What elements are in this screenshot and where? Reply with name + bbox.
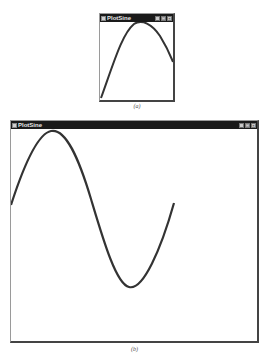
plot-area: [100, 22, 173, 100]
caption-b: (b): [10, 346, 259, 352]
plotsine-window-small: PlotSine _ □ ×: [99, 13, 175, 102]
close-button[interactable]: ×: [251, 123, 256, 128]
close-button[interactable]: ×: [167, 16, 172, 21]
plot-area: [11, 129, 257, 341]
window-controls: _ □ ×: [239, 123, 256, 128]
system-menu-icon[interactable]: [12, 123, 17, 128]
title-bar[interactable]: PlotSine _ □ ×: [100, 14, 173, 22]
caption-a: (a): [99, 103, 175, 109]
window-controls: _ □ ×: [155, 16, 172, 21]
minimize-button[interactable]: _: [239, 123, 244, 128]
title-bar[interactable]: PlotSine _ □ ×: [11, 121, 257, 129]
sine-curve-partial: [100, 22, 173, 100]
maximize-button[interactable]: □: [245, 123, 250, 128]
window-title: PlotSine: [18, 121, 239, 129]
window-title: PlotSine: [107, 14, 155, 22]
plotsine-window-large: PlotSine _ □ ×: [10, 120, 259, 343]
system-menu-icon[interactable]: [101, 16, 106, 21]
minimize-button[interactable]: _: [155, 16, 160, 21]
maximize-button[interactable]: □: [161, 16, 166, 21]
sine-curve-full: [11, 129, 257, 341]
